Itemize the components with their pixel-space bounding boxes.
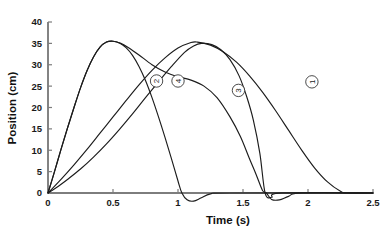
x-tick-label: 2	[305, 197, 310, 208]
y-tick-label: 35	[31, 38, 42, 49]
y-tick-label: 30	[31, 59, 42, 70]
y-tick-label: 10	[31, 145, 42, 156]
y-tick-label: 5	[37, 166, 43, 177]
y-tick-label: 40	[31, 16, 42, 27]
series-marker-2: 2	[150, 75, 162, 87]
y-tick-label: 0	[37, 187, 42, 198]
y-tick-label: 20	[31, 102, 42, 113]
series-marker-label-1: 1	[308, 79, 317, 84]
x-tick-label: 2.5	[366, 197, 380, 208]
y-axis-title: Position (cm)	[6, 71, 18, 144]
series-marker-1: 1	[306, 76, 318, 88]
x-tick-label: 0.5	[106, 197, 120, 208]
series-marker-label-4: 4	[174, 78, 183, 83]
series-marker-3: 3	[232, 84, 244, 96]
chart-figure: 00.511.522.5 0510152025303540 1234 Time …	[0, 0, 389, 230]
chart-background	[0, 0, 389, 230]
series-marker-label-3: 3	[234, 88, 243, 93]
x-tick-label: 1.5	[236, 197, 250, 208]
x-axis-title: Time (s)	[206, 214, 250, 226]
position-vs-time-line-chart: 00.511.522.5 0510152025303540 1234 Time …	[0, 0, 389, 230]
y-tick-label: 25	[31, 81, 42, 92]
x-tick-label: 0	[45, 197, 50, 208]
series-marker-label-2: 2	[152, 78, 161, 83]
series-marker-4: 4	[172, 75, 184, 87]
y-tick-label: 15	[31, 123, 42, 134]
x-tick-label: 1	[175, 197, 181, 208]
